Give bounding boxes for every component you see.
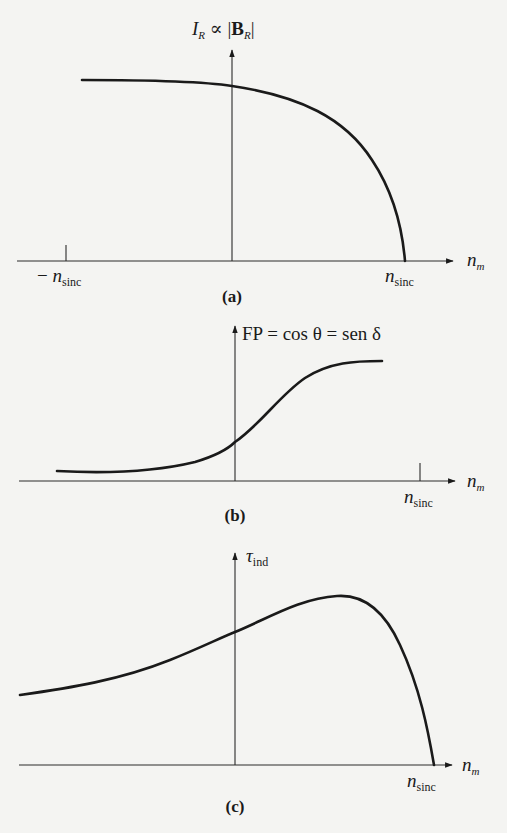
torque-curve <box>20 596 434 765</box>
y-axis-label: FP = cos θ = sen δ <box>242 323 381 344</box>
x-axis-label: nm <box>467 249 485 272</box>
figure-canvas: IR ∝ |BR| nm − nsinc nsinc (a) FP = cos … <box>0 0 507 833</box>
panel-caption-c: (c) <box>226 797 245 816</box>
tick-label-nsinc: nsinc <box>385 265 414 289</box>
y-axis-label: τind <box>246 545 268 569</box>
x-axis-label: nm <box>467 470 485 493</box>
current-curve <box>82 80 405 261</box>
y-axis-label: IR ∝ |BR| <box>191 18 254 41</box>
panel-c: τind nm nsinc (c) <box>19 545 480 816</box>
panel-a: IR ∝ |BR| nm − nsinc nsinc (a) <box>17 18 485 306</box>
panel-b: FP = cos θ = sen δ nm nsinc (b) <box>19 323 485 525</box>
tick-label-nsinc: nsinc <box>404 486 433 510</box>
power-factor-curve <box>57 361 382 472</box>
panel-caption-b: (b) <box>225 506 246 525</box>
tick-label-nsinc: nsinc <box>407 770 436 794</box>
x-axis-label: nm <box>462 754 480 777</box>
panel-caption-a: (a) <box>222 287 242 306</box>
tick-label-neg-nsinc: − nsinc <box>37 265 81 289</box>
